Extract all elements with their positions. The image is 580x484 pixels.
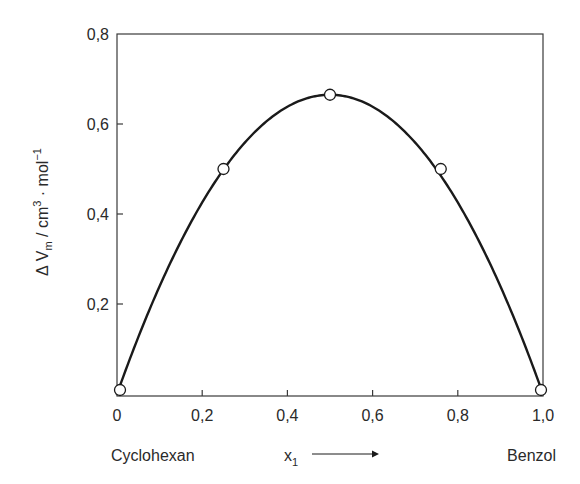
x-tick-label: 0,4 xyxy=(276,407,298,424)
plot-border xyxy=(117,34,543,396)
y-axis-label: ΔVm / cm3 · mol−1 xyxy=(31,148,54,276)
data-point-marker xyxy=(536,385,547,396)
chart-canvas: 00,20,40,60,81,00,20,40,60,8 ΔVm / cm3 ·… xyxy=(0,0,580,484)
y-tick-label: 0,6 xyxy=(87,116,109,133)
fit-curve xyxy=(117,95,543,394)
right-component-label: Benzol xyxy=(507,447,556,464)
y-tick-label: 0,2 xyxy=(87,296,109,313)
arrow-right-icon xyxy=(312,451,379,458)
x-tick-label: 0,6 xyxy=(361,407,383,424)
left-component-label: Cyclohexan xyxy=(111,447,195,464)
x-tick-label: 0 xyxy=(113,407,122,424)
plot-frame xyxy=(117,34,543,396)
data-point-marker xyxy=(325,89,336,100)
y-tick-label: 0,8 xyxy=(87,26,109,43)
x-axis-label: x1 xyxy=(284,447,298,468)
x-tick-label: 0,8 xyxy=(447,407,469,424)
data-point-marker xyxy=(218,164,229,175)
x-tick-label: 1,0 xyxy=(532,407,554,424)
data-point-marker xyxy=(115,385,126,396)
x-tick-label: 0,2 xyxy=(191,407,213,424)
axis-ticks: 00,20,40,60,81,00,20,40,60,8 xyxy=(87,26,554,424)
fit-curve-path xyxy=(117,95,543,394)
data-point-marker xyxy=(435,164,446,175)
y-tick-label: 0,4 xyxy=(87,206,109,223)
